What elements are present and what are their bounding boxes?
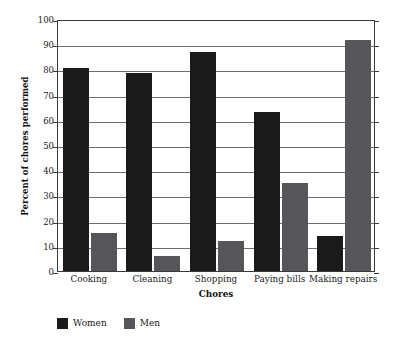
y-axis-title-text: Percent of chores performed (20, 76, 30, 215)
y-tick-label: 70 (43, 91, 54, 101)
x-tick-label: Paying bills (254, 274, 305, 284)
bar-chart-figure: Percent of chores performed 010203040506… (0, 0, 397, 345)
bar-paying-bills-men (282, 183, 308, 271)
axis-tick-mark (374, 197, 379, 198)
chart-legend: WomenMen (57, 315, 375, 331)
x-tick-label: Shopping (195, 274, 237, 284)
y-tick-label: 20 (43, 217, 54, 227)
x-axis-title: Chores (57, 289, 375, 299)
legend-swatch-men (124, 318, 135, 329)
bar-making-repairs-women (317, 236, 343, 271)
axis-tick-mark (374, 147, 379, 148)
y-tick-label: 10 (43, 242, 54, 252)
x-tick-label: Cleaning (133, 274, 173, 284)
y-tick-label: 50 (43, 141, 54, 151)
legend-label: Women (73, 318, 107, 328)
y-tick-label: 30 (43, 191, 54, 201)
bar-shopping-men (218, 241, 244, 271)
axis-tick-mark (374, 46, 379, 47)
y-tick-label: 80 (43, 65, 54, 75)
plot-area (57, 20, 375, 272)
axis-tick-mark (374, 223, 379, 224)
legend-entry-men: Men (124, 318, 160, 329)
axis-tick-mark (374, 122, 379, 123)
x-tick-label: Cooking (70, 274, 107, 284)
y-tick-label: 100 (38, 15, 54, 25)
legend-entry-women: Women (57, 318, 107, 329)
y-tick-label: 40 (43, 166, 54, 176)
bar-cleaning-women (126, 73, 152, 271)
bar-paying-bills-women (254, 112, 280, 271)
y-tick-label: 0 (49, 267, 54, 277)
bar-shopping-women (190, 52, 216, 271)
axis-tick-mark (374, 97, 379, 98)
axis-tick-mark (374, 172, 379, 173)
y-tick-label: 90 (43, 40, 54, 50)
legend-swatch-women (57, 318, 68, 329)
y-axis-tick-labels: 0102030405060708090100 (30, 20, 54, 272)
axis-tick-mark (374, 21, 379, 22)
y-tick-label: 60 (43, 116, 54, 126)
x-axis-tick-labels: CookingCleaningShoppingPaying billsMakin… (57, 274, 375, 290)
legend-label: Men (140, 318, 160, 328)
bar-cleaning-men (154, 256, 180, 271)
axis-tick-mark (374, 71, 379, 72)
bar-making-repairs-men (345, 40, 371, 271)
bar-group-container (58, 21, 374, 271)
bar-cooking-women (63, 68, 89, 271)
bar-cooking-men (91, 233, 117, 271)
x-tick-label: Making repairs (309, 274, 377, 284)
axis-tick-mark (374, 248, 379, 249)
